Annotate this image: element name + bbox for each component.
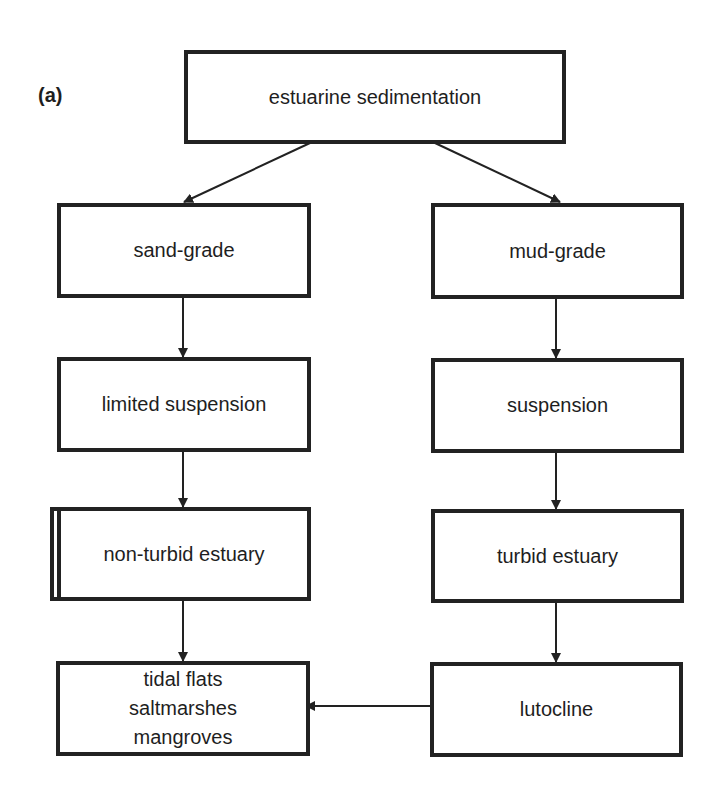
node-sand-grade: sand-grade — [57, 203, 311, 298]
node-tidal-flats-saltmarshes-mangroves: tidal flats saltmarshes mangroves — [56, 661, 310, 756]
node-limited-suspension: limited suspension — [57, 357, 311, 452]
node-suspension: suspension — [431, 358, 684, 453]
node-label-line-3: mangroves — [134, 723, 233, 752]
node-non-turbid-estuary-box: non-turbid estuary — [57, 507, 311, 601]
node-lutocline: lutocline — [430, 662, 683, 757]
node-label: turbid estuary — [497, 542, 618, 571]
node-label-line-1: tidal flats — [144, 665, 223, 694]
node-label: limited suspension — [102, 390, 267, 419]
node-label: mud-grade — [509, 237, 606, 266]
node-label: sand-grade — [133, 236, 234, 265]
node-label-line-2: saltmarshes — [129, 694, 237, 723]
node-label: estuarine sedimentation — [269, 83, 481, 112]
node-label: suspension — [507, 391, 608, 420]
node-label: lutocline — [520, 695, 593, 724]
node-mud-grade: mud-grade — [431, 203, 684, 299]
node-estuarine-sedimentation: estuarine sedimentation — [184, 50, 566, 144]
node-label: non-turbid estuary — [103, 540, 264, 569]
node-turbid-estuary: turbid estuary — [431, 509, 684, 603]
